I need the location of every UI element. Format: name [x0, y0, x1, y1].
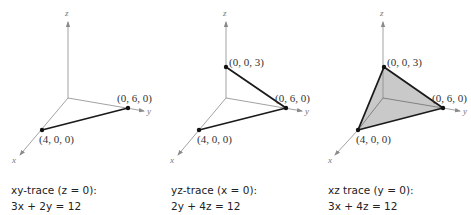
caption-title: yz-trace (x = 0):	[171, 182, 257, 198]
point-label-y-intercept: (0, 6, 0)	[432, 92, 467, 105]
caption-xy-trace: xy-trace (z = 0): 3x + 2y = 12	[11, 182, 97, 214]
point-y-intercept	[126, 106, 130, 110]
y-axis-label: y	[462, 106, 467, 116]
panel-xy-trace: z y x (0, 6, 0) (4, 0, 0)	[11, 8, 152, 165]
point-label-z-intercept: (0, 0, 3)	[229, 56, 264, 69]
x-axis-label: x	[11, 155, 16, 165]
y-axis-label: y	[146, 106, 151, 116]
caption-yz-trace: yz-trace (x = 0): 2y + 4z = 12	[171, 182, 257, 214]
caption-title: xy-trace (z = 0):	[11, 182, 97, 198]
point-y-intercept	[441, 106, 445, 110]
caption-equation: 3x + 4z = 12	[328, 198, 414, 214]
point-x-intercept	[356, 128, 360, 132]
point-z-intercept	[382, 65, 386, 69]
panel-xz-trace: z y x (0, 0, 3) (0, 6, 0) (4, 0, 0)	[327, 8, 467, 165]
caption-xz-trace: xz trace (y = 0): 3x + 4z = 12	[328, 182, 414, 214]
point-label-x-intercept: (4, 0, 0)	[356, 133, 391, 146]
point-label-y-intercept: (0, 6, 0)	[117, 92, 152, 105]
point-label-x-intercept: (4, 0, 0)	[197, 133, 232, 146]
caption-title: xz trace (y = 0):	[328, 182, 414, 198]
z-axis-label: z	[222, 8, 227, 18]
x-axis-label: x	[169, 155, 174, 165]
z-axis-label: z	[64, 8, 69, 18]
point-y-intercept	[284, 106, 288, 110]
trace-line-xy	[199, 108, 286, 130]
panel-yz-trace: z y x (0, 0, 3) (0, 6, 0) (4, 0, 0)	[169, 8, 310, 165]
y-axis-label: y	[304, 106, 309, 116]
x-axis-label: x	[327, 155, 332, 165]
x-axis	[20, 98, 68, 155]
point-label-x-intercept: (4, 0, 0)	[39, 133, 74, 146]
trace-line	[42, 108, 128, 130]
x-axis	[335, 130, 358, 155]
y-axis	[443, 108, 460, 111]
point-x-intercept	[197, 128, 201, 132]
point-label-z-intercept: (0, 0, 3)	[387, 56, 422, 69]
caption-equation: 3x + 2y = 12	[11, 198, 97, 214]
point-z-intercept	[224, 65, 228, 69]
point-label-y-intercept: (0, 6, 0)	[275, 92, 310, 105]
caption-equation: 2y + 4z = 12	[171, 198, 257, 214]
point-x-intercept	[40, 128, 44, 132]
x-axis	[178, 98, 226, 155]
z-axis-label: z	[379, 8, 384, 18]
